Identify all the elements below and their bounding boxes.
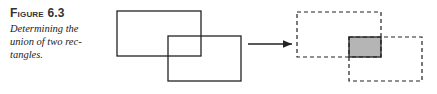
input-rectangle-a [117, 11, 201, 56]
intersection-region [349, 37, 381, 57]
input-rectangle-b [168, 36, 241, 81]
rectangle-union-diagram [0, 0, 437, 94]
